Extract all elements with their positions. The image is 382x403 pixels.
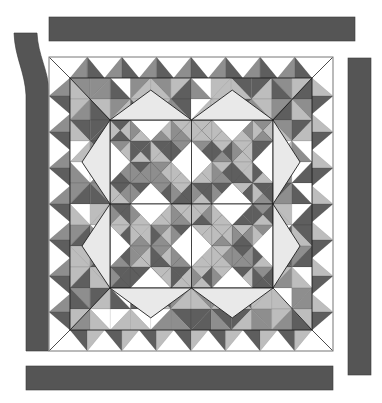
quilt-block: [192, 120, 274, 204]
bottom-border-strip: [26, 366, 333, 390]
quilt-block: [110, 204, 192, 288]
top-border-strip: [49, 17, 355, 41]
quilt-block: [192, 204, 274, 288]
right-border-strip: [348, 58, 371, 375]
quilt-block: [110, 120, 192, 204]
quilt-diagram: [0, 0, 382, 403]
center-blocks: [110, 120, 273, 288]
quilt-top: [49, 57, 333, 351]
left-border-strip: [14, 33, 49, 351]
